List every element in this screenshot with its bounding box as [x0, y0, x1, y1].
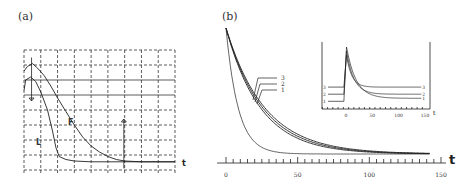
curve-L: [24, 77, 175, 162]
panel-b: (b) 050100150 321 t 050100150 112233 t: [217, 10, 455, 178]
panel-b-x-axis: [217, 157, 446, 163]
inset-curve-3: [328, 55, 421, 87]
panel-b-axis-t: t: [449, 152, 455, 167]
curve-label-F: F: [68, 118, 73, 127]
curve-label-L: L: [36, 138, 41, 147]
inset-tick-labels: 050100150: [345, 113, 430, 118]
inset-left-label-1: 1: [323, 99, 326, 104]
panel-a-curves: [24, 64, 175, 162]
curve-1: [226, 28, 430, 154]
inset-right-label-3: 3: [422, 85, 425, 90]
inset-curve-2: [328, 51, 421, 94]
inset-right-label-2: 2: [422, 92, 425, 97]
curve-3: [226, 28, 430, 154]
tick-label-0: 0: [224, 171, 228, 178]
panel-a-grid: [24, 50, 175, 175]
panel-a: (a) F L t: [18, 10, 186, 175]
panel-b-curves: [226, 28, 430, 154]
panel-b-tick-labels: 050100150: [224, 171, 447, 178]
figure: (a) F L t (b) 050100150 321 t 050100150 …: [0, 0, 469, 189]
panel-b-curve-callouts: 321: [253, 74, 285, 104]
callout-label-1: 1: [281, 86, 285, 93]
inset-tick-label-100: 100: [394, 113, 403, 118]
inset-curves: [328, 47, 421, 101]
inset-chart: 050100150 112233 t: [322, 42, 436, 118]
tick-label-100: 100: [364, 171, 376, 178]
inset-left-label-3: 3: [323, 85, 326, 90]
panel-a-axis-t: t: [182, 159, 186, 168]
inset-frame: [322, 42, 430, 109]
curve-F: [24, 64, 175, 162]
curve-2: [226, 28, 430, 154]
inset-left-label-2: 2: [323, 92, 326, 97]
panel-a-label: (a): [18, 10, 33, 23]
inset-axis-t: t: [433, 109, 436, 116]
inset-tick-label-0: 0: [345, 113, 348, 118]
tick-label-50: 50: [294, 171, 302, 178]
panel-a-annotations: [29, 58, 126, 169]
inset-tick-label-150: 150: [421, 113, 430, 118]
inset-x-axis: [322, 107, 430, 109]
curve-4: [226, 28, 430, 153]
inset-tick-label-50: 50: [369, 113, 375, 118]
tick-label-150: 150: [435, 171, 447, 178]
panel-b-label: (b): [222, 10, 238, 23]
